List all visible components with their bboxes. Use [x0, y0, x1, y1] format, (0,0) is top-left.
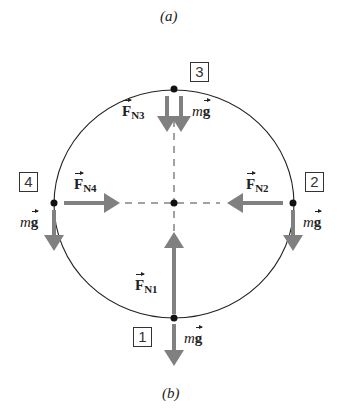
fn1-label: FN1 — [135, 277, 158, 295]
mg2-label: mg — [303, 214, 321, 231]
caption-b: (b) — [162, 385, 180, 402]
point-2-dot — [290, 200, 297, 207]
loop-diagram — [0, 0, 342, 413]
mg4-label: mg — [20, 214, 38, 231]
fn2-label: FN2 — [246, 176, 269, 194]
mg1-label: mg — [184, 330, 202, 347]
position-4-label: 4 — [19, 172, 38, 192]
position-2-label: 2 — [305, 172, 324, 192]
point-1-dot — [171, 315, 178, 322]
position-1-label: 1 — [133, 327, 152, 347]
fn4-label: FN4 — [74, 176, 97, 194]
mg3-label: mg — [192, 103, 210, 120]
position-3-label: 3 — [190, 62, 209, 82]
point-3-dot — [171, 86, 178, 93]
point-4-dot — [51, 200, 58, 207]
fn3-label: FN3 — [122, 103, 145, 121]
point-center-dot — [171, 200, 178, 207]
